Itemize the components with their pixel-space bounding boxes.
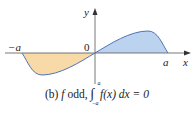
neg-a-label: −a: [8, 41, 21, 53]
y-axis-label: y: [83, 6, 89, 18]
caption-word: odd,: [67, 88, 87, 100]
x-axis-arrow-icon: [184, 51, 191, 56]
integral-upper: a: [97, 80, 100, 86]
integral-lower: −a: [91, 100, 98, 106]
y-axis-arrow-icon: [93, 8, 98, 15]
integral-sign-icon: ∫a−a: [90, 86, 94, 101]
pos-a-label: a: [163, 56, 169, 68]
caption-prefix: (b): [45, 88, 58, 100]
caption-integrand: f(x) dx = 0: [100, 88, 149, 100]
x-axis-label: x: [182, 56, 188, 68]
figure-caption: (b) f odd, ∫a−a f(x) dx = 0: [0, 86, 194, 102]
origin-label: 0: [84, 41, 90, 53]
caption-f: f: [61, 88, 64, 100]
